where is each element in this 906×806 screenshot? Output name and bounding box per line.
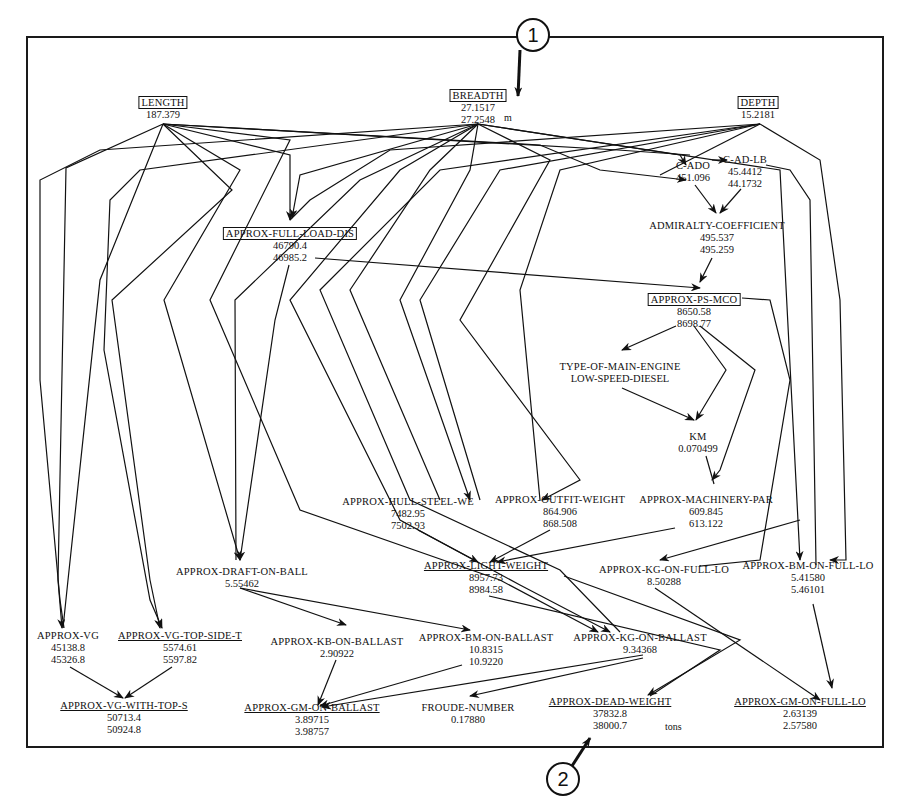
node-value: 10.8315 <box>469 644 503 655</box>
node-label: APPROX-OUTFIT-WEIGHT <box>495 494 625 506</box>
node-value: 0.17880 <box>451 714 485 725</box>
node-label: APPROX-FULL-LOAD-DIS <box>223 227 357 240</box>
node-approx-vg-top-side-t: APPROX-VG-TOP-SIDE-T 5574.61 5597.82 <box>118 630 242 666</box>
node-label: KM <box>689 431 706 443</box>
node-km: KM 0.070499 <box>678 431 717 455</box>
node-value: 864.906 <box>543 506 577 517</box>
node-label: APPROX-VG-WITH-TOP-S <box>60 700 187 712</box>
node-value: 0.070499 <box>678 443 717 454</box>
node-approx-hull-steel-we: APPROX-HULL-STEEL-WE 7482.95 7502.93 <box>342 496 474 532</box>
node-label: DEPTH <box>738 96 779 109</box>
node-value: 2.90922 <box>320 648 354 659</box>
node-value: 45326.8 <box>51 654 85 665</box>
node-breadth: BREADTH 27.1517 27.2548 <box>450 89 507 126</box>
node-approx-light-weight: APPROX-LIGHT-WEIGHT 8957.73 8984.58 <box>424 560 548 596</box>
node-approx-vg: APPROX-VG 45138.8 45326.8 <box>37 630 99 666</box>
node-value: 7482.95 <box>391 508 425 519</box>
node-value: 50713.4 <box>107 712 141 723</box>
node-approx-full-load-dis: APPROX-FULL-LOAD-DIS 46790.4 46985.2 <box>223 227 357 264</box>
node-label: APPROX-HULL-STEEL-WE <box>342 496 474 508</box>
node-approx-vg-with-top-s: APPROX-VG-WITH-TOP-S 50713.4 50924.8 <box>60 700 187 736</box>
node-label: APPROX-KG-ON-BALLAST <box>573 632 707 644</box>
node-value: 5574.61 <box>163 642 197 653</box>
node-value: 495.537 <box>700 232 734 243</box>
node-value: 9.34368 <box>623 644 657 655</box>
node-value: 45138.8 <box>51 642 85 653</box>
node-label: APPROX-BM-ON-BALLAST <box>419 632 554 644</box>
node-type-of-main-engine: TYPE-OF-MAIN-ENGINE LOW-SPEED-DIESEL <box>559 361 680 385</box>
node-value: 8698.77 <box>677 318 711 329</box>
node-approx-machinery-par: APPROX-MACHINERY-PAR 609.845 613.122 <box>639 494 773 530</box>
node-length: LENGTH 187.379 <box>138 96 187 121</box>
node-approx-bm-on-ballast: APPROX-BM-ON-BALLAST 10.8315 10.9220 <box>419 632 554 668</box>
node-value: 37832.8 <box>593 708 627 719</box>
node-value: 3.89715 <box>295 714 329 725</box>
node-label: APPROX-DEAD-WEIGHT <box>549 696 672 708</box>
node-approx-gm-on-full-lo: APPROX-GM-ON-FULL-LO 2.63139 2.57580 <box>734 696 866 732</box>
callout-2: 2 <box>546 762 580 796</box>
node-froude-number: FROUDE-NUMBER 0.17880 <box>421 702 514 726</box>
node-approx-kg-on-full-lo: APPROX-KG-ON-FULL-LO 8.50288 <box>599 564 729 588</box>
node-label: APPROX-MACHINERY-PAR <box>639 494 773 506</box>
node-label: BREADTH <box>450 89 507 102</box>
node-label: TYPE-OF-MAIN-ENGINE <box>559 361 680 373</box>
node-value: 27.2548 <box>461 114 495 125</box>
node-label: APPROX-GM-ON-BALLAST <box>244 702 379 714</box>
node-value: 609.845 <box>689 506 723 517</box>
node-value: 613.122 <box>689 518 723 529</box>
node-label: FROUDE-NUMBER <box>421 702 514 714</box>
node-label: LENGTH <box>138 96 187 109</box>
node-value: LOW-SPEED-DIESEL <box>571 373 670 384</box>
node-value: 8.50288 <box>647 576 681 587</box>
node-label: APPROX-VG <box>37 630 99 642</box>
node-c-ado: C-ADO 451.096 <box>676 160 710 184</box>
node-label: APPROX-VG-TOP-SIDE-T <box>118 630 242 642</box>
node-value: 2.63139 <box>783 708 817 719</box>
node-value: 8984.58 <box>469 584 503 595</box>
node-value: 44.1732 <box>728 178 762 189</box>
node-approx-ps-mco: APPROX-PS-MCO 8650.58 8698.77 <box>648 293 741 330</box>
node-label: APPROX-PS-MCO <box>648 293 741 306</box>
node-value: 8957.73 <box>469 572 503 583</box>
node-approx-kb-on-ballast: APPROX-KB-ON-BALLAST 2.90922 <box>271 636 404 660</box>
dead-weight-unit: tons <box>665 721 682 732</box>
node-label: APPROX-LIGHT-WEIGHT <box>424 560 548 572</box>
node-approx-gm-on-ballast: APPROX-GM-ON-BALLAST 3.89715 3.98757 <box>244 702 379 738</box>
node-approx-draft-on-ball: APPROX-DRAFT-ON-BALL 5.55462 <box>176 566 308 590</box>
node-label: C-ADO <box>676 160 710 172</box>
node-depth: DEPTH 15.2181 <box>738 96 779 121</box>
node-value: 5.46101 <box>791 584 825 595</box>
callout-1: 1 <box>516 18 550 52</box>
node-value: 2.57580 <box>783 720 817 731</box>
node-approx-kg-on-ballast: APPROX-KG-ON-BALLAST 9.34368 <box>573 632 707 656</box>
node-approx-bm-on-full-lo: APPROX-BM-ON-FULL-LO 5.41580 5.46101 <box>742 560 873 596</box>
node-label: C-AD-LB <box>723 154 767 166</box>
node-label: APPROX-DRAFT-ON-BALL <box>176 566 308 578</box>
node-value: 187.379 <box>146 109 180 120</box>
node-value: 10.9220 <box>469 656 503 667</box>
node-approx-outfit-weight: APPROX-OUTFIT-WEIGHT 864.906 868.508 <box>495 494 625 530</box>
node-c-ad-lb: C-AD-LB 45.4412 44.1732 <box>723 154 767 190</box>
breadth-unit: m <box>504 112 512 123</box>
node-value: 451.096 <box>676 172 710 183</box>
node-value: 38000.7 <box>593 720 627 731</box>
node-label: APPROX-KB-ON-BALLAST <box>271 636 404 648</box>
node-value: 8650.58 <box>677 306 711 317</box>
node-value: 495.259 <box>700 244 734 255</box>
node-value: 868.508 <box>543 518 577 529</box>
node-label: APPROX-BM-ON-FULL-LO <box>742 560 873 572</box>
node-label: APPROX-GM-ON-FULL-LO <box>734 696 866 708</box>
node-value: 5.55462 <box>225 578 259 589</box>
node-value: 45.4412 <box>728 166 762 177</box>
node-value: 46790.4 <box>273 240 307 251</box>
node-value: 3.98757 <box>295 726 329 737</box>
node-value: 27.1517 <box>461 102 495 113</box>
node-approx-dead-weight: APPROX-DEAD-WEIGHT 37832.8 38000.7 <box>549 696 672 732</box>
node-value: 50924.8 <box>107 724 141 735</box>
node-label: APPROX-KG-ON-FULL-LO <box>599 564 729 576</box>
node-value: 15.2181 <box>741 109 775 120</box>
node-value: 5.41580 <box>791 572 825 583</box>
node-value: 46985.2 <box>273 252 307 263</box>
node-admiralty-coefficient: ADMIRALTY-COEFFICIENT 495.537 495.259 <box>649 220 785 256</box>
node-value: 7502.93 <box>391 520 425 531</box>
